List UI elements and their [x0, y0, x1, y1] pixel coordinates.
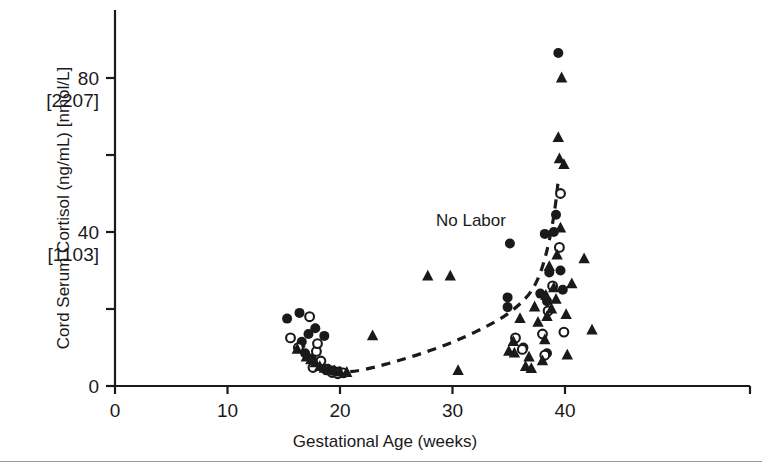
- x-tick-label-40: 40: [554, 400, 575, 421]
- y-tick-label-80: 80: [78, 68, 99, 89]
- footer-divider: [0, 461, 762, 462]
- data-point: [452, 364, 463, 375]
- data-point: [556, 72, 567, 83]
- data-point: [295, 308, 305, 318]
- data-point: [560, 328, 569, 337]
- data-point: [518, 345, 527, 354]
- annotation-no-labor: No Labor: [436, 211, 506, 231]
- data-point: [544, 260, 556, 271]
- data-point: [578, 253, 589, 264]
- data-point: [529, 301, 540, 312]
- series-open-circle: [286, 189, 568, 378]
- x-tick-label-30: 30: [442, 400, 463, 421]
- data-point: [313, 339, 322, 348]
- data-point: [422, 270, 433, 281]
- y-tick-label-40: 40: [78, 222, 99, 243]
- data-point: [445, 270, 456, 281]
- data-point: [555, 222, 566, 233]
- data-point: [503, 292, 513, 302]
- data-point: [310, 323, 320, 333]
- data-point: [556, 189, 565, 198]
- data-point: [558, 285, 568, 295]
- data-point: [503, 302, 513, 312]
- x-axis-title: Gestational Age (weeks): [230, 432, 540, 452]
- y-axis-title: Cord Serum Cortisol (ng/mL) [nmol/L]: [54, 48, 74, 368]
- series-filled-circle: [282, 48, 568, 376]
- data-point: [532, 316, 543, 327]
- figure-panel: 010203040040[1103]80[2207] Cord Serum Co…: [0, 0, 762, 476]
- data-point: [514, 312, 525, 323]
- data-point: [553, 48, 563, 58]
- data-point: [367, 330, 378, 341]
- data-point: [556, 266, 566, 276]
- data-point: [505, 239, 515, 249]
- data-point: [282, 314, 292, 324]
- x-tick-label-10: 10: [217, 400, 238, 421]
- data-point: [560, 308, 571, 319]
- y-tick-label-0: 0: [88, 376, 99, 397]
- data-point: [540, 229, 550, 239]
- data-point: [305, 312, 314, 321]
- data-point: [551, 210, 561, 220]
- data-point: [553, 131, 565, 142]
- data-point: [586, 324, 597, 335]
- x-tick-label-20: 20: [329, 400, 350, 421]
- data-point: [550, 293, 561, 304]
- x-tick-label-0: 0: [110, 400, 121, 421]
- data-point: [562, 349, 574, 360]
- data-point: [566, 278, 578, 289]
- scatter-plot-canvas: 010203040040[1103]80[2207]: [0, 0, 762, 476]
- data-point: [286, 334, 295, 343]
